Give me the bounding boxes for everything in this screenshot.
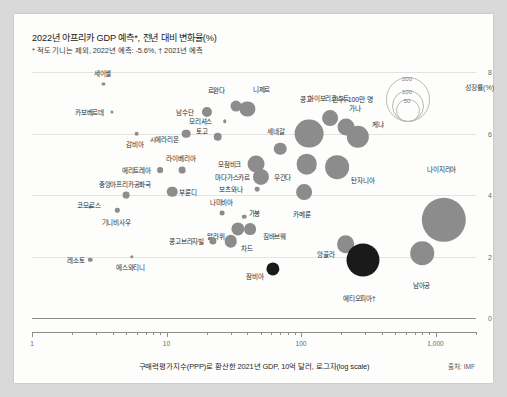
x-axis-minor-tick [415, 332, 416, 335]
bubble-point[interactable] [231, 222, 244, 235]
bubble-label: 에스와티니 [116, 262, 145, 272]
bubble-label: 에리트레아 [122, 165, 151, 175]
legend-size-label: 50 [404, 98, 411, 104]
source-note: 출처: IMF [448, 361, 475, 371]
bubble-point[interactable] [252, 169, 268, 185]
x-axis-minor-tick [295, 332, 296, 335]
x-axis-minor-tick [422, 332, 423, 335]
x-axis-minor-tick [146, 332, 147, 335]
chart-title: 2022년 아프리카 GDP 예측*, 전년 대비 변화율(%) [32, 30, 217, 44]
size-legend: 인구, 100만 명 20010050 [332, 74, 482, 122]
x-axis-minor-tick [341, 332, 342, 335]
bubble-point[interactable] [223, 119, 226, 122]
legend-size-label: 100 [402, 89, 412, 95]
x-axis-tick-label: 100 [295, 340, 306, 347]
bubble-point[interactable] [240, 101, 255, 116]
x-axis-major-tick [32, 332, 33, 337]
bubble-point[interactable] [266, 262, 279, 275]
bubble-point[interactable] [347, 243, 380, 276]
y-axis-tick: 6 [478, 130, 492, 137]
bubble-label: 콩고브라자빌 [169, 236, 204, 246]
gridline [32, 318, 476, 319]
x-axis-minor-tick [72, 332, 73, 335]
gridline [32, 134, 476, 135]
bubble-point[interactable] [244, 223, 256, 235]
bubble-point[interactable] [411, 242, 435, 266]
bubble-point[interactable] [134, 131, 139, 136]
bubble-point[interactable] [115, 208, 119, 212]
bubble-point[interactable] [130, 255, 133, 258]
bubble-label: 남아공 [413, 280, 430, 290]
bubble-point[interactable] [296, 154, 317, 175]
x-axis-tick-label: 1 [30, 340, 34, 347]
plot-area: 86420 세이셸카보베르데남수단르완다니제르모리셔스아이보리코스트가나감비아시… [32, 72, 476, 318]
bubble-label: 토고 [196, 126, 208, 136]
bubble-label: 라이베리아 [166, 153, 195, 163]
bubble-label: 짐바브웨 [263, 231, 286, 241]
size-legend-title: 인구, 100만 명 [332, 94, 373, 104]
bubble-point[interactable] [88, 257, 93, 262]
bubble-label: 감비아 [126, 139, 143, 149]
bubble-point[interactable] [325, 155, 349, 179]
bubble-point[interactable] [209, 238, 216, 245]
bubble-label: 나이지리아 [427, 164, 456, 174]
x-axis-minor-tick [261, 332, 262, 335]
x-axis-minor-tick [280, 332, 281, 335]
bubble-label: 모잠비크 [218, 159, 241, 169]
x-axis-minor-tick [429, 332, 430, 335]
x-axis-minor-tick [288, 332, 289, 335]
bubble-point[interactable] [296, 184, 312, 200]
bubble-label: 탄자니아 [351, 175, 374, 185]
bubble-label: 우간다 [274, 172, 291, 182]
bubble-label: 마다가스카르 [215, 172, 250, 182]
y-axis-tick: 0 [478, 315, 492, 322]
bubble-point[interactable] [182, 129, 191, 138]
x-axis-minor-tick [365, 332, 366, 335]
bubble-point[interactable] [220, 211, 225, 216]
x-axis-minor-tick [395, 332, 396, 335]
bubble-point[interactable] [255, 186, 260, 191]
bubble-point[interactable] [347, 125, 369, 147]
bubble-label: 잠비아 [246, 271, 263, 281]
x-axis-line [32, 332, 476, 333]
chart-card: 2022년 아프리카 GDP 예측*, 전년 대비 변화율(%) * 적도 기니… [14, 14, 493, 383]
x-axis-minor-tick [271, 332, 272, 335]
gridline [32, 257, 476, 258]
bubble-point[interactable] [178, 167, 185, 174]
bubble-label: 콩고 [300, 94, 312, 104]
x-axis-minor-tick [96, 332, 97, 335]
bubble-label: 레소토 [67, 255, 84, 265]
x-axis-minor-tick [231, 332, 232, 335]
bubble-label: 세이셸 [94, 68, 111, 78]
bubble-label: 모리셔스 [189, 116, 212, 126]
bubble-label: 에티오피아† [343, 293, 375, 303]
x-axis-major-tick [436, 332, 437, 337]
bubble-point[interactable] [274, 143, 287, 156]
bubble-label: 차드 [241, 243, 253, 253]
bubble-point[interactable] [157, 168, 163, 174]
x-axis-minor-tick [207, 332, 208, 335]
bubble-label: 가봉 [249, 208, 261, 218]
x-axis-minor-tick [160, 332, 161, 335]
bubble-label: 나미비아 [210, 197, 233, 207]
bubble-point[interactable] [224, 235, 237, 248]
x-axis-major-tick [301, 332, 302, 337]
bubble-point[interactable] [295, 119, 324, 148]
x-axis-tick-label: 10 [163, 340, 170, 347]
bubble-label: 중앙아프리카공화국 [99, 179, 151, 189]
bubble-point[interactable] [110, 110, 113, 113]
bubble-point[interactable] [242, 214, 247, 219]
bubble-label: 르완다 [208, 85, 225, 95]
bubble-label: 세네갈 [267, 126, 284, 136]
x-axis-major-tick [167, 332, 168, 337]
bubble-point[interactable] [123, 192, 130, 199]
bubble-label: 카메룬 [293, 209, 310, 219]
bubble-point[interactable] [102, 83, 105, 86]
y-axis-tick: 2 [478, 253, 492, 260]
bubble-label: 시에라리온 [150, 134, 179, 144]
x-axis: 구매력평가지수(PPP)로 환산한 2021년 GDP, 10억 달러, 로그자… [32, 332, 476, 362]
bubble-point[interactable] [213, 132, 222, 141]
bubble-point[interactable] [421, 197, 465, 241]
bubble-point[interactable] [167, 187, 178, 198]
bubble-label: 보츠와나 [219, 184, 242, 194]
